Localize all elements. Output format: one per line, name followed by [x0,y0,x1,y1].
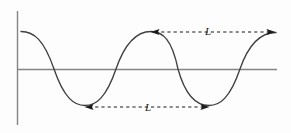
wavelength-label-bottom: L [145,102,151,113]
wave-diagram-svg [0,0,291,133]
dimension-top [151,29,276,35]
wavelength-label-top: L [205,26,211,37]
wave-curve [21,32,276,106]
wave-figure: L L [0,0,291,133]
